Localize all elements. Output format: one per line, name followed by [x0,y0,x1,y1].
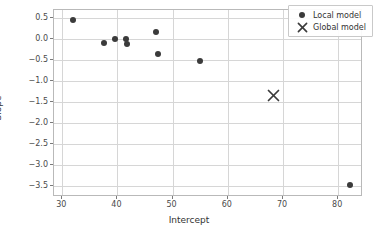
chart-legend: Local modelGlobal model [288,5,373,37]
data-point-dot [124,41,130,47]
x-tick-label: 70 [277,200,287,209]
y-tick-label: −1.5 [29,97,48,106]
y-tick-mark [50,59,53,60]
y-tick-mark [50,38,53,39]
data-point-dot [347,182,353,188]
x-axis-label: Intercept [0,215,378,225]
legend-entry: Local model [293,9,366,21]
x-tick-label: 40 [111,200,121,209]
plot-area [53,9,362,196]
gridline-horizontal [54,81,361,82]
scatter-chart-figure: 304050607080 0.50.0−0.5−1.0−1.5−2.0−2.5−… [0,0,378,231]
y-tick-label: −1.0 [29,75,48,84]
gridline-horizontal [54,144,361,145]
y-tick-label: −3.5 [29,181,48,190]
x-tick-label: 30 [56,200,66,209]
y-tick-label: 0.0 [35,33,48,42]
gridline-horizontal [54,60,361,61]
y-tick-mark [50,164,53,165]
x-tick-mark [337,196,338,199]
circle-marker-icon [293,12,311,18]
x-tick-mark [116,196,117,199]
data-point-dot [153,29,159,35]
x-tick-mark [61,196,62,199]
x-tick-mark [282,196,283,199]
y-tick-mark [50,185,53,186]
data-point-dot [112,36,118,42]
gridline-horizontal [54,165,361,166]
x-tick-mark [227,196,228,199]
gridline-horizontal [54,186,361,187]
x-tick-mark [172,196,173,199]
y-tick-mark [50,17,53,18]
y-tick-mark [50,101,53,102]
data-point-x-marker [267,89,280,102]
y-tick-label: 0.5 [35,12,48,21]
y-tick-label: −2.0 [29,118,48,127]
y-tick-label: −2.5 [29,139,48,148]
legend-label: Global model [311,23,366,32]
y-tick-label: −0.5 [29,54,48,63]
legend-entry: Global model [293,21,366,33]
x-tick-label: 60 [222,200,232,209]
x-marker-icon [293,22,311,33]
y-tick-mark [50,143,53,144]
gridline-horizontal [54,123,361,124]
y-tick-mark [50,122,53,123]
data-point-dot [70,17,76,23]
y-axis-label: Slope [0,96,3,121]
gridline-horizontal [54,39,361,40]
data-point-dot [197,58,203,64]
y-tick-label: −3.0 [29,160,48,169]
data-point-dot [155,51,161,57]
data-point-dot [101,40,107,46]
x-tick-label: 50 [167,200,177,209]
y-tick-mark [50,80,53,81]
legend-label: Local model [311,11,361,20]
gridline-horizontal [54,102,361,103]
x-tick-label: 80 [332,200,342,209]
